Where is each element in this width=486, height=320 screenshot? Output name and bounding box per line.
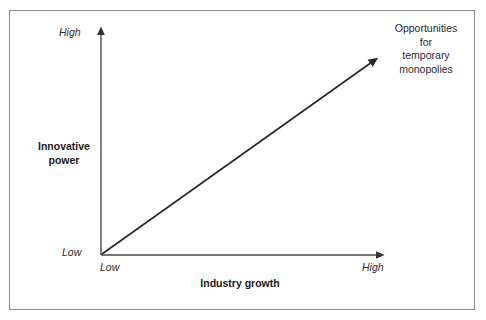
trend-arrow: [102, 62, 372, 254]
x-axis-title: Industry growth: [175, 276, 305, 290]
y-axis-title: Innovative power: [28, 139, 100, 167]
figure-root: High Low Low High Innovative power Indus…: [0, 0, 486, 320]
x-axis-low-label: Low: [100, 261, 119, 274]
opportunity-annotation: Opportunities for temporary monopolies: [378, 22, 474, 77]
y-axis-high-label: High: [59, 26, 81, 39]
y-axis-low-label: Low: [62, 246, 81, 259]
x-axis-high-label: High: [362, 261, 384, 274]
